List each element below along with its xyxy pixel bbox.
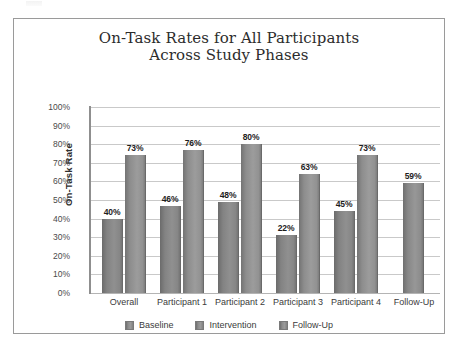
bar: 59% (403, 183, 424, 293)
chart-title-line-2: Across Study Phases (14, 47, 444, 64)
legend-label: Intervention (209, 320, 256, 330)
bar: 63% (299, 174, 320, 293)
chart-figure: On-Task Rates for All Participants Acros… (0, 0, 459, 349)
y-tick-label-10: 10% (36, 270, 70, 279)
y-tick-label-50: 50% (36, 196, 70, 205)
bar: 73% (125, 155, 146, 293)
bar-value-label: 63% (301, 162, 318, 172)
y-tick-label-100: 100% (36, 103, 70, 112)
bar: 40% (102, 219, 123, 293)
bar: 45% (334, 211, 355, 293)
legend-item-follow-up[interactable]: Follow-Up (279, 320, 334, 330)
bar-value-label: 73% (359, 143, 376, 153)
scan-artifact (26, 1, 42, 6)
chart-title-line-1: On-Task Rates for All Participants (14, 30, 444, 47)
y-tick-label-40: 40% (36, 215, 70, 224)
legend-swatch-icon (195, 321, 204, 330)
figure-frame: On-Task Rates for All Participants Acros… (13, 18, 445, 334)
gridline-100 (91, 107, 440, 108)
plot-area: 40%73%46%76%48%80%22%63%45%73%59% (91, 107, 440, 293)
legend-label: Baseline (139, 320, 174, 330)
x-axis-label-follow-up: Follow-Up (369, 297, 459, 307)
legend-item-baseline[interactable]: Baseline (125, 320, 174, 330)
bar-value-label: 46% (162, 194, 179, 204)
bar-value-label: 45% (336, 199, 353, 209)
bar-value-label: 76% (185, 138, 202, 148)
bar-value-label: 40% (104, 207, 121, 217)
bar-value-label: 22% (278, 223, 295, 233)
gridline-0 (91, 293, 440, 294)
legend-label: Follow-Up (293, 320, 334, 330)
chart-title: On-Task Rates for All Participants Acros… (14, 30, 444, 64)
bar: 48% (218, 202, 239, 293)
chart-legend: BaselineInterventionFollow-Up (14, 320, 444, 330)
bar-value-label: 73% (127, 143, 144, 153)
bar: 46% (160, 206, 181, 293)
bar: 76% (183, 150, 204, 293)
bar-value-label: 48% (220, 190, 237, 200)
y-tick-label-70: 70% (36, 159, 70, 168)
legend-swatch-icon (125, 321, 134, 330)
bar-value-label: 80% (243, 132, 260, 142)
legend-swatch-icon (279, 321, 288, 330)
bar: 22% (276, 235, 297, 293)
bar-value-label: 59% (405, 171, 422, 181)
bar: 73% (357, 155, 378, 293)
gridline-90 (91, 126, 440, 127)
y-tick-label-90: 90% (36, 122, 70, 131)
y-tick-label-30: 30% (36, 233, 70, 242)
y-tick-label-80: 80% (36, 140, 70, 149)
y-tick-label-60: 60% (36, 177, 70, 186)
y-tick-label-0: 0% (36, 289, 70, 298)
y-tick-label-20: 20% (36, 252, 70, 261)
bar: 80% (241, 144, 262, 293)
legend-item-intervention[interactable]: Intervention (195, 320, 256, 330)
